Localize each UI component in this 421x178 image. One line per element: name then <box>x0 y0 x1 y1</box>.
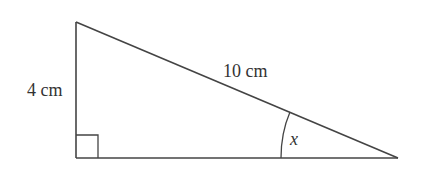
triangle-diagram <box>0 0 421 178</box>
angle-arc <box>281 112 290 158</box>
right-angle-marker <box>76 135 98 158</box>
angle-label: x <box>290 130 298 148</box>
hypotenuse <box>76 22 398 158</box>
vertical-side-label: 4 cm <box>27 81 63 99</box>
hypotenuse-label: 10 cm <box>223 62 268 80</box>
